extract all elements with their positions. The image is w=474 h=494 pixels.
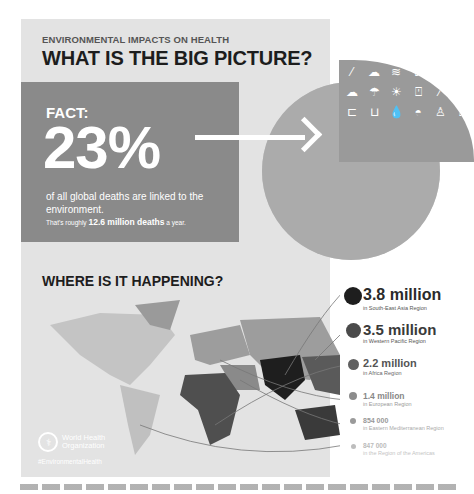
region-value: 854 000	[363, 417, 388, 424]
hashtag: #EnvironmentalHealth	[38, 458, 102, 465]
fact-box: FACT: 23% of all global deaths are linke…	[21, 82, 239, 242]
headline: WHAT IS THE BIG PICTURE?	[42, 47, 312, 70]
region-value: 1.4 million	[363, 391, 405, 401]
fact-subtext: That's roughly 12.6 million deaths a yea…	[46, 217, 186, 227]
car-icon: ⊏	[451, 62, 473, 82]
region-name: in Africa Region	[363, 370, 402, 376]
south-america	[120, 385, 160, 455]
africa	[180, 373, 240, 445]
rain-cloud-icon: ☂	[363, 82, 385, 102]
map-section-title: WHERE IS IT HAPPENING?	[42, 273, 223, 289]
fact-percent: 23%	[43, 118, 160, 178]
who-name-line2: Organization	[62, 442, 105, 450]
who-logo: ⚕ World Health Organization	[38, 432, 105, 452]
region-dot-icon	[348, 359, 359, 370]
who-emblem-icon: ⚕	[38, 432, 58, 452]
region-dot-icon	[349, 392, 357, 400]
bottle-icon: ⍞	[407, 82, 429, 102]
region-value: 3.5 million	[363, 321, 436, 338]
fact-description: of all global deaths are linked to the e…	[46, 190, 236, 216]
region-dot-icon	[351, 444, 356, 449]
water-waves-icon: ≋	[385, 62, 407, 82]
car-icon: ⊏	[341, 102, 363, 122]
region-dot-icon	[346, 323, 361, 338]
region-dot-icon	[350, 418, 356, 424]
region-name: in European Region	[363, 401, 412, 407]
region-value: 847 000	[363, 442, 387, 449]
fact-sub-bold: 12.6 million deaths	[88, 217, 164, 227]
europe	[190, 325, 250, 365]
fact-sub-suffix: a year.	[166, 219, 186, 226]
region-name: in South-East Asia Region	[363, 305, 427, 311]
cigarette-icon: ⁄	[341, 62, 363, 82]
south-east-asia	[260, 355, 305, 400]
sun-cloud-icon: ☁	[451, 82, 473, 102]
toilet-icon: ⊔	[407, 62, 429, 82]
bottle-icon: ⍞	[451, 102, 473, 122]
water-drop-icon: 💧	[385, 102, 407, 122]
sunset-waves-icon: ☀	[385, 82, 407, 102]
australia	[295, 405, 340, 440]
world-map	[40, 295, 340, 455]
region-dot-icon	[344, 287, 362, 305]
region-value: 2.2 million	[363, 357, 417, 369]
cigarette-icon: ⁄	[429, 82, 451, 102]
region-name: in the Region of the Americas	[363, 450, 435, 456]
who-name: World Health Organization	[62, 434, 105, 450]
sun-cloud-icon: ☁	[363, 62, 385, 82]
water-drop-icon: 💧	[429, 62, 451, 82]
region-name: in Eastern Mediterranean Region	[363, 425, 444, 431]
fact-sub-prefix: That's roughly	[46, 219, 87, 226]
environmental-icons-segment: ⁄☁≋⊔💧⊏☁☂☀⍞⁄☁⊏⊔💧◓♙⍞	[339, 60, 474, 162]
region-name: in Western Pacific Region	[363, 338, 426, 344]
toilet-icon: ⊔	[363, 102, 385, 122]
sunrise-icon: ◓	[407, 102, 429, 122]
kicker: ENVIRONMENTAL IMPACTS ON HEALTH	[42, 34, 229, 45]
region-value: 3.8 million	[363, 286, 441, 304]
cut-off-caption	[20, 484, 460, 490]
sun-cloud-icon: ☁	[341, 82, 363, 102]
person-icon: ♙	[429, 102, 451, 122]
